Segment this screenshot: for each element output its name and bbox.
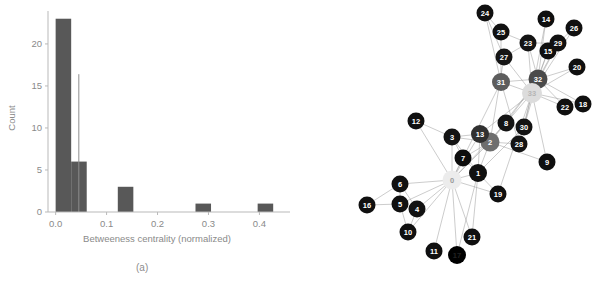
network-node[interactable]: 4: [409, 201, 426, 218]
x-tick-label: 0.0: [49, 218, 62, 229]
network-node-circle[interactable]: [471, 125, 489, 143]
network-node[interactable]: 24: [477, 5, 494, 22]
network-node[interactable]: 0: [443, 171, 462, 190]
network-node[interactable]: 28: [511, 136, 528, 153]
network-edge: [472, 173, 478, 237]
x-tick-label: 0.4: [253, 218, 266, 229]
network-node-circle[interactable]: [511, 136, 528, 153]
x-axis-title: Betweeness centrality (normalized): [83, 233, 231, 244]
network-node-circle[interactable]: [516, 119, 533, 136]
y-tick-label: 5: [37, 164, 42, 175]
network-node-circle[interactable]: [498, 115, 515, 132]
x-tick-label: 0.3: [202, 218, 215, 229]
network-edge: [532, 93, 547, 162]
network-node[interactable]: 7: [455, 150, 472, 167]
network-node[interactable]: 13: [471, 125, 489, 143]
network-node-circle[interactable]: [426, 243, 443, 260]
histogram-bars-group: [56, 19, 274, 212]
network-node[interactable]: 20: [569, 59, 586, 76]
histogram-svg: 051015200.00.10.20.30.4 Count Betweeness…: [0, 0, 300, 290]
network-node[interactable]: 6: [392, 176, 409, 193]
network-node-circle[interactable]: [392, 196, 409, 213]
network-svg: 0123456789101112131415161718192021222324…: [300, 0, 595, 290]
network-node[interactable]: 9: [539, 154, 556, 171]
network-node[interactable]: 17: [448, 246, 466, 264]
network-node[interactable]: 16: [359, 197, 376, 214]
network-node-circle[interactable]: [492, 73, 510, 91]
network-node-circle[interactable]: [575, 96, 592, 113]
network-node[interactable]: 1: [469, 164, 487, 182]
network-node[interactable]: 11: [426, 243, 443, 260]
network-node[interactable]: 5: [392, 196, 409, 213]
x-tick-label: 0.2: [151, 218, 164, 229]
network-edge: [416, 121, 452, 180]
network-node[interactable]: 14: [538, 11, 555, 28]
y-tick-label: 20: [31, 38, 42, 49]
y-tick-label: 15: [31, 80, 42, 91]
y-axis-title: Count: [6, 105, 17, 131]
network-node-circle[interactable]: [409, 201, 426, 218]
network-nodes-group: 0123456789101112131415161718192021222324…: [359, 5, 592, 265]
network-node-circle[interactable]: [557, 99, 574, 116]
network-node-circle[interactable]: [520, 35, 537, 52]
network-node[interactable]: 18: [575, 96, 592, 113]
network-node[interactable]: 29: [550, 35, 567, 52]
network-node-circle[interactable]: [522, 83, 542, 103]
network-node[interactable]: 21: [464, 229, 481, 246]
histogram-bar: [258, 204, 274, 212]
network-node-circle[interactable]: [566, 20, 583, 37]
network-node-circle[interactable]: [448, 246, 466, 264]
network-node-circle[interactable]: [539, 154, 556, 171]
network-node[interactable]: 23: [520, 35, 537, 52]
histogram-bar: [195, 204, 211, 212]
histogram-bar: [118, 187, 134, 212]
network-node[interactable]: 8: [498, 115, 515, 132]
network-node[interactable]: 31: [492, 73, 510, 91]
network-node-circle[interactable]: [569, 59, 586, 76]
network-node-circle[interactable]: [359, 197, 376, 214]
network-node-circle[interactable]: [538, 11, 555, 28]
network-node[interactable]: 12: [408, 113, 425, 130]
network-node[interactable]: 25: [493, 24, 510, 41]
network-node[interactable]: 22: [557, 99, 574, 116]
panel-a-histogram: 051015200.00.10.20.30.4 Count Betweeness…: [0, 0, 300, 290]
network-node-circle[interactable]: [493, 24, 510, 41]
network-node-circle[interactable]: [408, 113, 425, 130]
histogram-bar: [56, 19, 72, 212]
network-node[interactable]: 33: [522, 83, 542, 103]
network-node-circle[interactable]: [444, 129, 461, 146]
panel-a-caption: (a): [136, 262, 148, 273]
network-node[interactable]: 19: [490, 186, 507, 203]
network-node-circle[interactable]: [400, 224, 417, 241]
network-node-circle[interactable]: [496, 49, 513, 66]
network-node[interactable]: 30: [516, 119, 533, 136]
network-node[interactable]: 27: [496, 49, 513, 66]
network-node[interactable]: 26: [566, 20, 583, 37]
network-node-circle[interactable]: [392, 176, 409, 193]
network-node-circle[interactable]: [443, 171, 462, 190]
network-node-circle[interactable]: [477, 5, 494, 22]
network-node-circle[interactable]: [464, 229, 481, 246]
network-node-circle[interactable]: [455, 150, 472, 167]
network-edge: [485, 13, 501, 82]
y-tick-label: 10: [31, 122, 42, 133]
figure-container: 051015200.00.10.20.30.4 Count Betweeness…: [0, 0, 595, 290]
panel-b-network: 0123456789101112131415161718192021222324…: [300, 0, 595, 290]
network-edge: [501, 82, 519, 144]
network-node-circle[interactable]: [490, 186, 507, 203]
y-tick-label: 0: [37, 206, 42, 217]
network-node-circle[interactable]: [550, 35, 567, 52]
network-node-circle[interactable]: [469, 164, 487, 182]
x-tick-label: 0.1: [100, 218, 113, 229]
network-node[interactable]: 10: [400, 224, 417, 241]
network-node[interactable]: 3: [444, 129, 461, 146]
